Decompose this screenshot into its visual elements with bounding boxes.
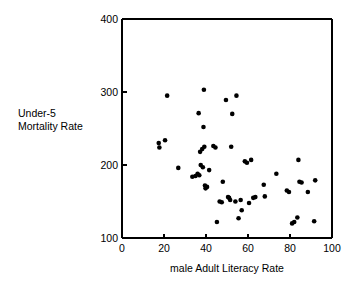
- data-point: [156, 141, 161, 146]
- data-point: [296, 158, 301, 163]
- data-point: [211, 144, 216, 149]
- data-point: [306, 190, 311, 195]
- y-tick-label: 300: [100, 86, 118, 98]
- data-point: [221, 179, 226, 184]
- x-tick-label: 100: [323, 242, 341, 254]
- data-point: [157, 145, 162, 150]
- data-point: [234, 93, 239, 98]
- data-point: [230, 112, 235, 117]
- data-point: [201, 125, 206, 130]
- data-point: [239, 208, 244, 213]
- data-point: [215, 220, 220, 225]
- data-point: [200, 147, 205, 152]
- x-tick-label: 60: [242, 242, 254, 254]
- data-point: [274, 171, 279, 176]
- data-point: [247, 201, 252, 206]
- data-point: [299, 180, 304, 185]
- x-tick-label: 80: [284, 242, 296, 254]
- data-point: [251, 196, 256, 201]
- data-point: [201, 165, 206, 170]
- data-point: [163, 138, 168, 143]
- data-point: [229, 144, 234, 149]
- data-point: [236, 216, 241, 221]
- plot-canvas: 020406080100100200300400 male Adult Lite…: [0, 0, 357, 283]
- axes-frame: [122, 19, 332, 238]
- y-axis-title-line1: Under-5: [18, 107, 56, 119]
- data-point: [238, 198, 243, 203]
- data-point: [224, 98, 229, 103]
- data-point: [202, 88, 207, 93]
- y-tick-label: 400: [100, 13, 118, 25]
- data-point: [165, 93, 170, 98]
- data-point: [196, 111, 201, 116]
- x-tick-label: 0: [119, 242, 125, 254]
- x-tick-label: 40: [200, 242, 212, 254]
- data-point: [243, 159, 248, 164]
- data-point: [285, 188, 290, 193]
- data-point: [295, 215, 300, 220]
- tick-labels: 020406080100100200300400: [100, 13, 340, 254]
- data-point: [205, 185, 210, 190]
- data-point: [263, 194, 268, 199]
- data-point: [313, 178, 318, 183]
- x-axis-title: male Adult Literacy Rate: [170, 262, 284, 274]
- data-point: [193, 174, 198, 179]
- data-point: [176, 166, 181, 171]
- scatter-plot-figure: 020406080100100200300400 male Adult Lite…: [0, 0, 357, 283]
- data-point: [219, 200, 224, 205]
- y-axis-title-line2: Mortality Rate: [18, 120, 83, 132]
- data-point: [312, 219, 317, 224]
- data-point: [249, 158, 254, 163]
- data-points-group: [156, 88, 317, 226]
- data-point: [233, 199, 238, 204]
- x-tick-label: 20: [158, 242, 170, 254]
- data-point: [261, 182, 266, 187]
- data-point: [207, 168, 212, 173]
- data-point: [226, 195, 231, 200]
- y-tick-label: 100: [100, 232, 118, 244]
- data-point: [292, 220, 297, 225]
- y-tick-label: 200: [100, 159, 118, 171]
- tick-marks: [122, 19, 332, 238]
